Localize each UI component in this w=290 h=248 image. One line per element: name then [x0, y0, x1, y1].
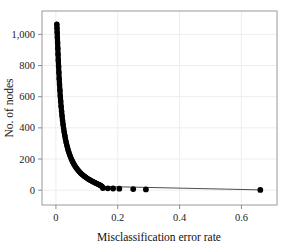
x-tick-label: 0.6 — [235, 212, 248, 223]
data-point — [56, 76, 61, 81]
y-tick-label: 200 — [19, 154, 35, 165]
x-tick-label: 0.4 — [173, 212, 187, 223]
data-point — [130, 186, 136, 192]
x-axis-title: Misclassification error rate — [97, 231, 221, 243]
data-point — [110, 186, 116, 192]
data-point — [58, 99, 63, 104]
y-tick-label: 1,000 — [11, 29, 35, 40]
data-point — [143, 187, 149, 193]
data-point — [57, 88, 62, 93]
y-tick-label: 800 — [19, 60, 35, 71]
data-point — [58, 93, 63, 98]
data-point — [105, 185, 111, 191]
data-point — [57, 82, 62, 87]
chart-figure: 00.20.40.6 02004006008001,000 Misclassif… — [0, 0, 290, 248]
y-tick-label: 400 — [19, 122, 35, 133]
data-point — [59, 108, 64, 113]
data-point — [55, 35, 60, 40]
data-point — [116, 186, 122, 192]
data-point — [55, 40, 60, 45]
data-point — [54, 30, 59, 35]
data-point — [55, 46, 60, 51]
data-point — [55, 52, 60, 57]
y-tick-label: 0 — [30, 185, 35, 196]
data-point — [56, 64, 61, 69]
data-point — [58, 104, 63, 109]
data-point — [257, 187, 263, 193]
data-point — [56, 58, 61, 63]
x-tick-label: 0.2 — [111, 212, 124, 223]
y-tick-label: 600 — [19, 91, 35, 102]
data-point — [100, 185, 106, 191]
x-tick-label: 0 — [53, 212, 58, 223]
nodes-vs-error-scatter-plot: 00.20.40.6 02004006008001,000 Misclassif… — [0, 0, 290, 248]
y-axis-title: No. of nodes — [3, 78, 15, 138]
data-point — [56, 70, 61, 75]
